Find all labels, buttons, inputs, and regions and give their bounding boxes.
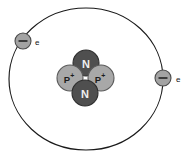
electron-upper-left: e [15, 33, 40, 49]
electron-upper-left-label: e [35, 38, 40, 47]
nucleus-group: N P+ P+ N [57, 50, 114, 106]
neutron-top-label: N [82, 58, 90, 70]
electron-right: e [155, 70, 181, 86]
neutron-bottom-label: N [81, 88, 89, 100]
proton-left-charge: + [70, 71, 74, 78]
proton-right-charge: + [101, 71, 105, 78]
electron-right-label: e [176, 75, 181, 84]
electron-orbit-path [9, 8, 163, 150]
diagram-canvas: N P+ P+ N [0, 0, 191, 160]
nucleus-particle-neutron-bottom: N [72, 80, 98, 106]
atom-model-diagram: N P+ P+ N [0, 0, 191, 160]
